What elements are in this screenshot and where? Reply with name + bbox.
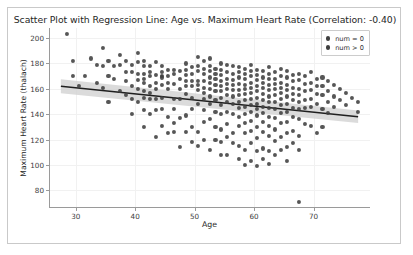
gridline <box>49 114 370 115</box>
scatter-point <box>237 75 241 79</box>
scatter-point <box>279 80 283 84</box>
scatter-point <box>267 65 271 69</box>
scatter-point <box>255 68 259 72</box>
legend-label: num = 0 <box>335 35 364 43</box>
plot-area: 80100120140160180200 3040506070 num = 0 … <box>49 28 370 208</box>
scatter-point <box>249 74 253 78</box>
scatter-point <box>213 77 217 81</box>
scatter-point <box>160 124 164 128</box>
scatter-point <box>255 89 259 93</box>
scatter-point <box>243 77 247 81</box>
scatter-point <box>303 106 307 110</box>
scatter-point <box>255 125 259 129</box>
scatter-point <box>291 92 295 96</box>
scatter-point <box>297 148 301 152</box>
scatter-point <box>184 79 188 83</box>
scatter-point <box>231 141 235 145</box>
scatter-point <box>285 131 289 135</box>
x-axis-spine <box>49 207 370 208</box>
scatter-point <box>267 77 271 81</box>
scatter-point <box>314 92 318 96</box>
scatter-point <box>225 77 229 81</box>
scatter-point <box>219 79 223 83</box>
scatter-point <box>219 68 223 72</box>
scatter-point <box>243 92 247 96</box>
scatter-point <box>154 135 158 139</box>
scatter-point <box>124 93 128 97</box>
scatter-point <box>118 89 122 93</box>
scatter-point <box>326 99 330 103</box>
scatter-point <box>273 70 277 74</box>
scatter-point <box>166 87 170 91</box>
scatter-point <box>172 107 176 111</box>
scatter-point <box>160 75 164 79</box>
scatter-point <box>249 118 253 122</box>
scatter-point <box>231 131 235 135</box>
scatter-point <box>172 130 176 134</box>
scatter-point <box>196 69 200 73</box>
scatter-point <box>261 157 265 161</box>
scatter-point <box>273 116 277 120</box>
scatter-point <box>338 87 342 91</box>
scatter-point <box>184 61 188 65</box>
scatter-point <box>178 97 182 101</box>
scatter-point <box>100 46 104 50</box>
scatter-point <box>261 69 265 73</box>
scatter-point <box>95 63 99 67</box>
scatter-point <box>231 64 235 68</box>
scatter-point <box>154 80 158 84</box>
gridline <box>49 140 370 141</box>
scatter-point <box>219 89 223 93</box>
scatter-point <box>225 93 229 97</box>
scatter-point <box>130 70 134 74</box>
scatter-point <box>273 99 277 103</box>
scatter-point <box>148 112 152 116</box>
scatter-point <box>213 110 217 114</box>
scatter-point <box>213 83 217 87</box>
scatter-point <box>178 69 182 73</box>
scatter-point <box>297 200 301 204</box>
scatter-point <box>172 72 176 76</box>
scatter-point <box>202 120 206 124</box>
scatter-point <box>267 99 271 103</box>
scatter-point <box>291 79 295 83</box>
scatter-point <box>219 61 223 65</box>
scatter-point <box>166 68 170 72</box>
scatter-point <box>213 72 217 76</box>
scatter-point <box>267 72 271 76</box>
scatter-point <box>332 94 336 98</box>
y-tick-mark <box>46 140 49 141</box>
scatter-point <box>309 124 313 128</box>
scatter-point <box>273 139 277 143</box>
scatter-point <box>106 59 110 63</box>
scatter-point <box>243 98 247 102</box>
scatter-point <box>249 141 253 145</box>
scatter-point <box>142 72 146 76</box>
scatter-point <box>297 117 301 121</box>
scatter-point <box>207 87 211 91</box>
scatter-point <box>243 105 247 109</box>
scatter-point <box>237 144 241 148</box>
scatter-point <box>196 55 200 59</box>
scatter-point <box>154 87 158 91</box>
scatter-point <box>148 74 152 78</box>
scatter-point <box>172 121 176 125</box>
scatter-point <box>184 84 188 88</box>
scatter-point <box>285 83 289 87</box>
scatter-point <box>196 130 200 134</box>
gridline <box>254 28 255 208</box>
scatter-point <box>350 96 354 100</box>
x-tick-mark <box>254 208 255 211</box>
scatter-point <box>285 145 289 149</box>
scatter-point <box>249 69 253 73</box>
scatter-point <box>190 96 194 100</box>
scatter-point <box>207 102 211 106</box>
legend-item: num > 0 <box>326 43 364 52</box>
scatter-point <box>309 88 313 92</box>
scatter-point <box>142 80 146 84</box>
scatter-point <box>136 51 140 55</box>
y-tick-mark <box>46 89 49 90</box>
y-tick-label: 120 <box>30 135 44 144</box>
scatter-point <box>273 77 277 81</box>
scatter-point <box>255 73 259 77</box>
